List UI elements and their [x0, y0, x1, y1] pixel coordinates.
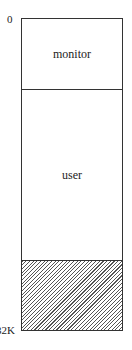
region-user-label: user: [62, 168, 82, 183]
region-monitor: monitor: [22, 19, 122, 90]
address-label-end: 32K: [0, 325, 15, 336]
memory-map: monitor user: [21, 18, 123, 331]
address-label-start: 0: [7, 14, 13, 25]
region-monitor-label: monitor: [53, 47, 91, 62]
region-user: user: [22, 90, 122, 261]
region-unused-hatched: [22, 261, 122, 330]
